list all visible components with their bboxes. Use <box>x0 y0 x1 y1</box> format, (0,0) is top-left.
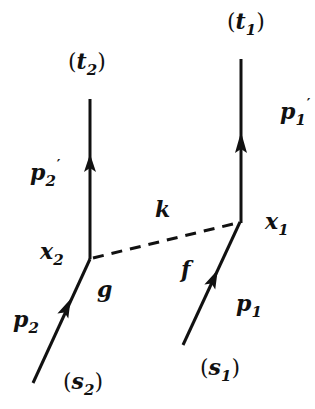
label-k: k <box>155 198 170 220</box>
label-x2: x2 <box>40 240 64 268</box>
p2-arrow-icon <box>57 296 76 318</box>
p1-line <box>183 222 240 345</box>
label-g: g <box>97 278 112 300</box>
label-x1: x1 <box>265 210 289 238</box>
label-t2: (t2) <box>68 50 106 78</box>
p2-line <box>33 259 90 383</box>
label-t1: (t1) <box>227 10 265 38</box>
label-p2: p2 <box>13 308 39 336</box>
label-f: f <box>181 258 190 280</box>
k-exchange-line <box>93 223 237 258</box>
label-s2: (s2) <box>63 370 103 398</box>
label-s1: (s1) <box>200 356 240 384</box>
label-p1: p1 <box>236 292 262 320</box>
label-p2-prime: p2′ <box>30 158 61 189</box>
label-p1-prime: p1′ <box>280 97 311 128</box>
p1-arrow-icon <box>204 267 223 289</box>
